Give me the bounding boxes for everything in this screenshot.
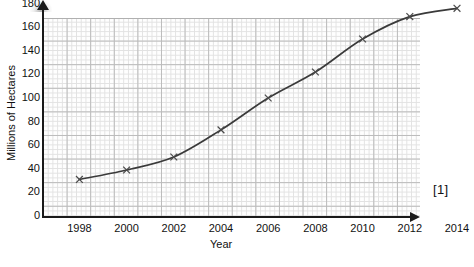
y-axis-title: Millions of Hectares (5, 38, 17, 188)
x-axis-arrowhead-icon (410, 212, 420, 222)
x-tick-label: 2002 (151, 222, 197, 234)
x-axis-title: Year (210, 238, 232, 250)
data-point-marker (454, 5, 461, 12)
marks-annotation: [1] (433, 182, 448, 197)
grid-top-border (44, 18, 420, 19)
x-tick-label: 2000 (104, 222, 150, 234)
x-tick-label: 2010 (340, 222, 386, 234)
y-axis-line (42, 6, 44, 218)
y-tick-label: 180 (6, 0, 40, 9)
x-tick-label: 2006 (245, 222, 291, 234)
x-axis-line (42, 216, 412, 218)
x-tick-label: 2008 (292, 222, 338, 234)
x-tick-label: 2004 (198, 222, 244, 234)
y-tick-label: 20 (6, 186, 40, 197)
x-tick-label: 2014 (434, 222, 474, 234)
x-tick-label: 1998 (56, 222, 102, 234)
y-tick-label: 0 (6, 210, 40, 221)
x-tick-label: 2012 (387, 222, 433, 234)
y-tick-label: 160 (6, 21, 40, 32)
graph-paper-grid (44, 18, 420, 216)
